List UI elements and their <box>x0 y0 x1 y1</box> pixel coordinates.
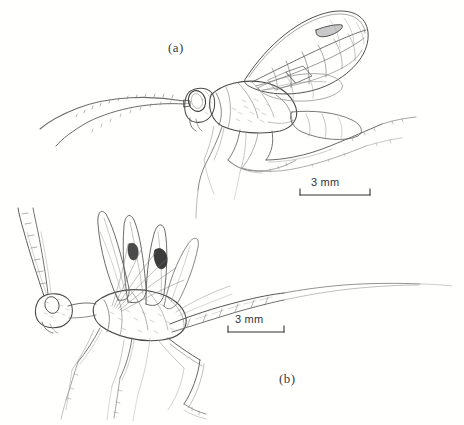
wings-b <box>98 211 232 316</box>
wasp-illustration <box>0 0 464 425</box>
legs-b <box>61 328 206 421</box>
legs-a <box>196 117 416 218</box>
abdomen-a <box>290 111 361 139</box>
forewing-a <box>245 11 369 94</box>
panel-label-b: (b) <box>279 371 296 387</box>
thorax-a <box>210 81 297 133</box>
antenna-group-b <box>18 208 51 296</box>
scale-bar-a-label: 3 mm <box>311 176 339 188</box>
panel-label-a: (a) <box>168 40 184 56</box>
figure-plate: (a) (b) 3 mm 3 mm <box>0 0 464 425</box>
compound-eye-b <box>43 295 62 315</box>
scale-bar-b-label: 3 mm <box>235 313 263 325</box>
abdomen-b <box>170 283 452 332</box>
thorax-b <box>93 290 186 341</box>
head-b <box>35 294 72 333</box>
hindwing-a <box>258 74 342 101</box>
antenna-group-a <box>40 94 190 146</box>
scale-bar-a: 3 mm <box>298 176 372 198</box>
scale-bar-b: 3 mm <box>226 313 286 335</box>
